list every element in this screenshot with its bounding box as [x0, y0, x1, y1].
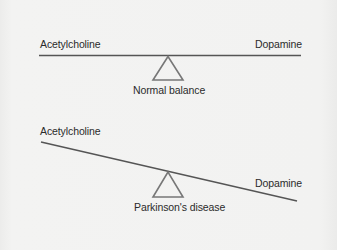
- parkinsons-acetylcholine-label: Acetylcholine: [40, 125, 101, 137]
- normal-balance-caption: Normal balance: [133, 84, 205, 96]
- parkinsons-disease-caption: Parkinson's disease: [134, 201, 225, 213]
- parkinsons-fulcrum-icon: [153, 172, 183, 197]
- figure-page: Acetylcholine Dopamine Normal balance Ac…: [0, 0, 337, 250]
- normal-dopamine-label: Dopamine: [255, 38, 302, 50]
- normal-fulcrum-icon: [153, 57, 183, 81]
- normal-acetylcholine-label: Acetylcholine: [40, 38, 101, 50]
- tilted-beam: [41, 142, 297, 201]
- parkinsons-dopamine-label: Dopamine: [255, 177, 302, 189]
